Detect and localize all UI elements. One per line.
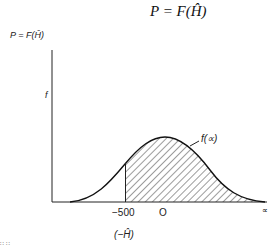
tick-label-minus-500: −500	[112, 207, 135, 218]
x-axis-symbol: ∝	[262, 206, 268, 215]
threshold-label: (−Ĥ)	[114, 229, 134, 240]
tick-label-zero: O	[159, 207, 167, 218]
caption-fragment: ∷ ∷	[0, 239, 10, 246]
curve-label: f(∝)	[201, 133, 217, 144]
shaded-area	[70, 137, 265, 202]
density-plot	[0, 0, 275, 247]
curve-label-pointer	[190, 141, 199, 146]
